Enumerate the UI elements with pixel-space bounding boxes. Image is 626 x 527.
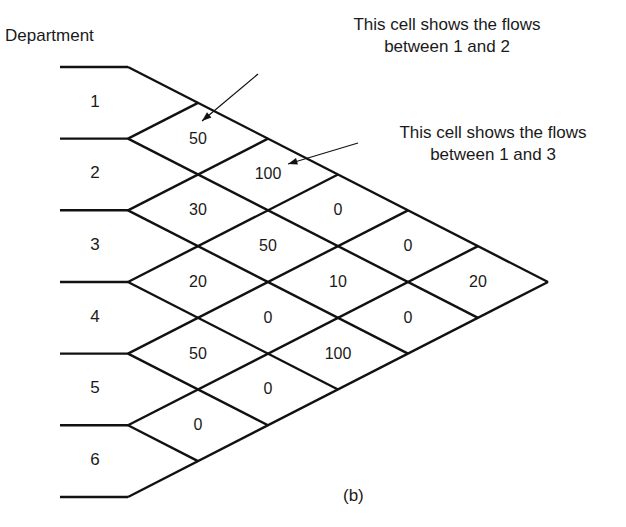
flow-cell-3-6: 100 — [308, 345, 368, 363]
department-label-4: 4 — [80, 307, 110, 327]
department-label-2: 2 — [80, 163, 110, 183]
annotation-1-3: This cell shows the flows between 1 and … — [368, 122, 618, 166]
diagonal-up — [128, 174, 338, 281]
annotation-1-2: This cell shows the flows between 1 and … — [322, 14, 572, 58]
figure-caption: (b) — [343, 486, 364, 506]
flow-cell-2-6: 0 — [378, 309, 438, 327]
flow-matrix-lattice — [0, 0, 626, 527]
flow-cell-3-5: 0 — [238, 309, 298, 327]
department-label-3: 3 — [80, 235, 110, 255]
flow-cell-1-5: 0 — [378, 237, 438, 255]
flow-cell-4-6: 0 — [238, 380, 298, 398]
flow-cell-3-4: 20 — [168, 273, 228, 291]
flow-cell-1-6: 20 — [448, 273, 508, 291]
department-label-6: 6 — [80, 450, 110, 470]
diagonal-down — [128, 282, 338, 389]
arrow-to-cell-1-2 — [202, 74, 258, 121]
department-header: Department — [5, 26, 94, 46]
flow-cell-2-5: 10 — [308, 273, 368, 291]
department-label-1: 1 — [80, 92, 110, 112]
flow-cell-2-4: 50 — [238, 237, 298, 255]
flow-cell-4-5: 50 — [168, 345, 228, 363]
flow-cell-5-6: 0 — [168, 416, 228, 434]
department-label-5: 5 — [80, 378, 110, 398]
flow-cell-1-2: 50 — [168, 130, 228, 148]
flow-cell-1-3: 100 — [238, 165, 298, 183]
flow-cell-2-3: 30 — [168, 201, 228, 219]
flow-cell-1-4: 0 — [308, 201, 368, 219]
arrow-to-cell-1-3-head — [288, 158, 298, 165]
